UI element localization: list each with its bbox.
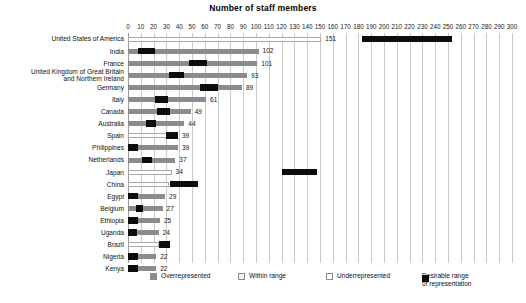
legend-item[interactable]: Desirable range of representation <box>422 272 472 287</box>
value-bar <box>128 182 169 187</box>
x-tick-label: 60 <box>201 23 208 30</box>
x-tick-label: 150 <box>315 23 326 30</box>
category-label: Philippines <box>2 142 124 154</box>
legend-swatch-over-icon <box>150 273 157 280</box>
chart-row: China32 <box>128 178 512 190</box>
x-tick-label: 110 <box>264 23 274 30</box>
value-bar <box>128 85 242 90</box>
value-label: 29 <box>169 193 176 200</box>
value-label: 89 <box>246 84 253 91</box>
desirable-range-marker <box>128 265 138 272</box>
value-label: 24 <box>163 241 170 248</box>
x-tick-label: 30 <box>163 23 170 30</box>
x-tick-label: 40 <box>176 23 183 30</box>
legend-item[interactable]: Underrepresented <box>326 272 390 280</box>
desirable-range-marker <box>138 48 155 55</box>
legend-label: Within range <box>249 272 286 280</box>
legend-label: Overrepresented <box>161 272 210 280</box>
x-tick-label: 20 <box>150 23 157 30</box>
chart-row: Germany89 <box>128 81 512 93</box>
category-label: China <box>2 178 124 190</box>
x-axis-tick-labels: 0102030405060708090100110120130140150160… <box>128 23 512 33</box>
desirable-range-marker <box>157 108 170 115</box>
value-bar <box>128 121 184 126</box>
x-tick-label: 300 <box>507 23 518 30</box>
x-tick-label: 240 <box>430 23 441 30</box>
desirable-range-marker <box>136 205 144 212</box>
legend-swatch-within-icon <box>238 273 245 280</box>
x-tick-label: 160 <box>328 23 339 30</box>
value-label: 22 <box>160 253 167 260</box>
chart-legend: OverrepresentedWithin rangeUnderrepresen… <box>150 272 526 298</box>
value-label: 61 <box>210 96 217 103</box>
desirable-range-marker <box>282 169 318 176</box>
chart-row: France101 <box>128 57 512 69</box>
x-tick-label: 290 <box>494 23 505 30</box>
category-label: Kenya <box>2 263 124 275</box>
category-label: Australia <box>2 118 124 130</box>
desirable-range-marker <box>189 60 207 67</box>
chart-row: India102 <box>128 45 512 57</box>
chart-row: United Kingdom of Great Britain and Nort… <box>128 69 512 81</box>
x-tick-label: 80 <box>227 23 234 30</box>
category-label: Germany <box>2 81 124 93</box>
value-bar <box>128 206 163 211</box>
value-label: 32 <box>173 181 180 188</box>
desirable-range-marker <box>362 36 452 43</box>
x-tick-label: 180 <box>353 23 364 30</box>
staff-members-chart: Number of staff members 0102030405060708… <box>0 0 526 303</box>
category-label: Italy <box>2 94 124 106</box>
x-tick-label: 280 <box>481 23 492 30</box>
desirable-range-marker <box>128 253 138 260</box>
x-tick-label: 260 <box>456 23 467 30</box>
legend-label: Desirable range of representation <box>422 272 472 287</box>
chart-row: Japan34 <box>128 166 512 178</box>
chart-row: Philippines39 <box>128 142 512 154</box>
x-tick-label: 210 <box>392 23 403 30</box>
x-tick-label: 220 <box>404 23 415 30</box>
legend-item[interactable]: Within range <box>238 272 286 280</box>
x-tick-label: 100 <box>251 23 262 30</box>
category-label: Japan <box>2 166 124 178</box>
value-label: 37 <box>179 156 186 163</box>
value-label: 39 <box>182 144 189 151</box>
chart-row: United States of America151 <box>128 33 512 45</box>
desirable-range-marker <box>128 229 137 236</box>
category-label: Netherlands <box>2 154 124 166</box>
category-label: Egypt <box>2 190 124 202</box>
category-label: Uganda <box>2 227 124 239</box>
x-tick-label: 90 <box>240 23 247 30</box>
category-label: Ethiopia <box>2 215 124 227</box>
legend-item[interactable]: Overrepresented <box>150 272 210 280</box>
x-tick-label: 70 <box>214 23 221 30</box>
value-label: 49 <box>195 108 202 115</box>
chart-row: Uganda24 <box>128 227 512 239</box>
desirable-range-marker <box>169 72 184 79</box>
category-label: Belgium <box>2 202 124 214</box>
value-label: 102 <box>263 47 274 54</box>
desirable-range-marker <box>142 157 152 164</box>
category-label: Spain <box>2 130 124 142</box>
x-tick-label: 10 <box>137 23 144 30</box>
chart-row: Netherlands37 <box>128 154 512 166</box>
chart-row: Brazil24 <box>128 239 512 251</box>
chart-row: Egypt29 <box>128 190 512 202</box>
value-label: 34 <box>176 168 183 175</box>
value-label: 93 <box>251 72 258 79</box>
desirable-range-marker <box>128 193 138 200</box>
chart-row: Italy61 <box>128 94 512 106</box>
gridline <box>512 33 513 263</box>
desirable-range-marker <box>128 144 138 151</box>
chart-row: Ethiopia25 <box>128 215 512 227</box>
value-bar <box>128 73 247 78</box>
legend-label: Underrepresented <box>337 272 390 280</box>
x-tick-label: 0 <box>126 23 130 30</box>
desirable-range-marker <box>146 120 156 127</box>
chart-row: Spain39 <box>128 130 512 142</box>
category-label: United Kingdom of Great Britain and Nort… <box>2 69 124 81</box>
value-label: 25 <box>164 217 171 224</box>
x-tick-label: 190 <box>366 23 377 30</box>
legend-swatch-range-icon <box>422 275 429 282</box>
desirable-range-marker <box>200 84 218 91</box>
x-tick-label: 140 <box>302 23 313 30</box>
